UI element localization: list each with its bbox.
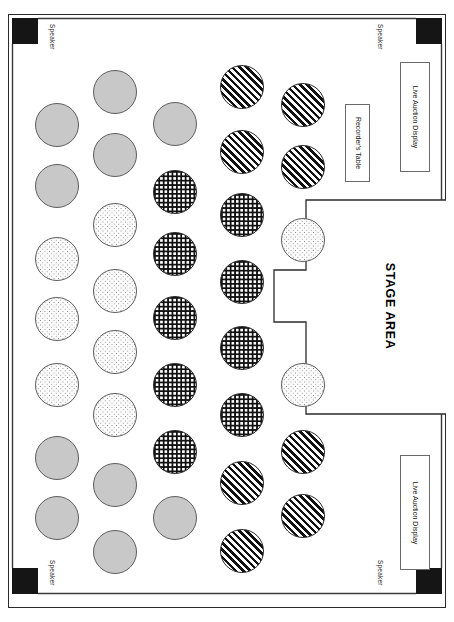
round-table-c2-r3[interactable] <box>93 203 137 247</box>
round-table-c3-r2[interactable] <box>153 170 197 214</box>
round-table-c1-r5[interactable] <box>35 363 79 407</box>
stage-area-label: STAGE AREA <box>383 263 397 350</box>
speaker-label-top-right: Speaker <box>377 24 384 50</box>
round-table-c2-r4[interactable] <box>93 269 137 313</box>
round-table-c3-r5[interactable] <box>153 363 197 407</box>
live-auction-display-bottom[interactable]: Live Auction Display <box>400 455 430 570</box>
speaker-label-bottom-left: Speaker <box>49 560 56 586</box>
round-table-c4-r1[interactable] <box>220 65 264 109</box>
round-table-c1-r7[interactable] <box>35 496 79 540</box>
round-table-c3-r4[interactable] <box>153 296 197 340</box>
recorders-table[interactable]: Recorder's Table <box>345 104 370 182</box>
round-table-c1-r3[interactable] <box>35 237 79 281</box>
round-table-c2-r7[interactable] <box>93 463 137 507</box>
live-auction-display-top-label: Live Auction Display <box>412 86 419 149</box>
round-table-c3-r3[interactable] <box>153 232 197 276</box>
round-table-c5-r5[interactable] <box>281 430 325 474</box>
round-table-c4-r8[interactable] <box>220 529 264 573</box>
round-table-c2-r1[interactable] <box>93 70 137 114</box>
round-table-c3-r1[interactable] <box>153 102 197 146</box>
speaker-block-bottom-left <box>12 568 38 594</box>
speaker-block-bottom-right <box>416 568 442 594</box>
round-table-c2-r2[interactable] <box>93 133 137 177</box>
round-table-c4-r2[interactable] <box>220 130 264 174</box>
live-auction-display-bottom-label: Live Auction Display <box>412 481 419 544</box>
live-auction-display-top[interactable]: Live Auction Display <box>400 62 430 172</box>
recorders-table-label: Recorder's Table <box>354 117 361 169</box>
round-table-c3-r7[interactable] <box>153 496 197 540</box>
round-table-c4-r3[interactable] <box>220 193 264 237</box>
round-table-c4-r6[interactable] <box>220 393 264 437</box>
speaker-label-bottom-right: Speaker <box>377 560 384 586</box>
round-table-c1-r1[interactable] <box>35 103 79 147</box>
round-table-c5-r3[interactable] <box>281 218 325 262</box>
round-table-c5-r1[interactable] <box>281 83 325 127</box>
round-table-c5-r6[interactable] <box>281 494 325 538</box>
speaker-label-top-left: Speaker <box>49 24 56 50</box>
speaker-block-top-right <box>416 18 442 44</box>
round-table-c1-r6[interactable] <box>35 436 79 480</box>
floor-plan-diagram: SpeakerSpeakerSpeakerSpeaker Recorder's … <box>0 0 454 622</box>
round-table-c4-r7[interactable] <box>220 461 264 505</box>
round-table-c3-r6[interactable] <box>153 430 197 474</box>
round-table-c4-r4[interactable] <box>220 260 264 304</box>
round-table-c1-r4[interactable] <box>35 297 79 341</box>
round-table-c5-r2[interactable] <box>281 145 325 189</box>
speaker-block-top-left <box>12 18 38 44</box>
round-table-c1-r2[interactable] <box>35 164 79 208</box>
round-table-c4-r5[interactable] <box>220 326 264 370</box>
round-table-c2-r8[interactable] <box>93 530 137 574</box>
round-table-c2-r6[interactable] <box>93 393 137 437</box>
round-table-c5-r4[interactable] <box>281 363 325 407</box>
round-table-c2-r5[interactable] <box>93 330 137 374</box>
